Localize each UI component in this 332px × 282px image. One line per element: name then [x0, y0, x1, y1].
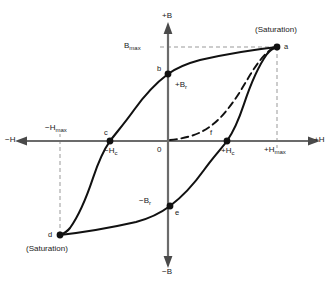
hysteresis-loop-figure: +B −B +H −H 0 Bmax +Hmax −Hmax +Hc −Hc +…	[0, 0, 332, 282]
tick-label-h-max-positive-base: +H	[264, 145, 274, 154]
point-label-f: f	[210, 129, 212, 137]
tick-label-h-c-negative: −Hc	[104, 147, 117, 155]
saturation-label-bottom: (Saturation)	[26, 245, 68, 253]
tick-label-h-max-negative-subscript: max	[55, 127, 66, 133]
tick-label-b-r-negative-base: −B	[139, 196, 149, 205]
tick-label-b-r-positive: +Br	[175, 81, 187, 89]
b-axis-positive-arrowhead	[164, 22, 173, 34]
point-a-marker	[274, 44, 281, 51]
tick-label-b-max-subscript: max	[129, 45, 140, 51]
origin-label: 0	[157, 146, 161, 154]
point-label-c: c	[104, 129, 108, 137]
tick-label-h-c-positive: +Hc	[221, 147, 234, 155]
initial-magnetization-curve-path	[170, 47, 277, 140]
tick-label-b-r-positive-base: +B	[175, 80, 185, 89]
point-b-marker	[165, 71, 172, 78]
point-e-marker	[167, 203, 174, 210]
axis-label-b-negative: −B	[162, 268, 172, 276]
tick-label-h-c-positive-subscript: c	[231, 150, 234, 156]
axis-label-h-positive: +H	[314, 136, 324, 144]
saturation-label-top: (Saturation)	[255, 26, 297, 34]
tick-label-h-max-positive: +Hmax	[264, 146, 286, 154]
point-f-marker	[224, 138, 231, 145]
tick-label-h-max-positive-subscript: max	[274, 149, 285, 155]
point-d-marker	[57, 232, 64, 239]
axis-label-h-negative: −H	[5, 136, 15, 144]
point-label-e: e	[175, 209, 179, 217]
point-label-d: d	[48, 231, 52, 239]
tick-label-h-c-positive-base: +H	[221, 146, 231, 155]
point-label-a: a	[284, 43, 288, 51]
tick-label-h-c-negative-base: −H	[104, 146, 114, 155]
tick-label-b-r-negative-subscript: r	[149, 200, 151, 206]
point-c-marker	[107, 138, 114, 145]
tick-label-b-max: Bmax	[124, 42, 141, 50]
tick-label-b-r-negative: −Br	[139, 197, 151, 205]
tick-label-b-r-positive-subscript: r	[185, 84, 187, 90]
tick-label-h-max-negative-base: −H	[45, 123, 55, 132]
axis-label-b-positive: +B	[162, 12, 172, 20]
h-axis-negative-arrowhead	[15, 137, 27, 146]
point-label-b: b	[157, 65, 161, 73]
tick-label-h-c-negative-subscript: c	[114, 150, 117, 156]
tick-label-h-max-negative: −Hmax	[45, 124, 67, 132]
hysteresis-curve-canvas	[0, 0, 332, 282]
